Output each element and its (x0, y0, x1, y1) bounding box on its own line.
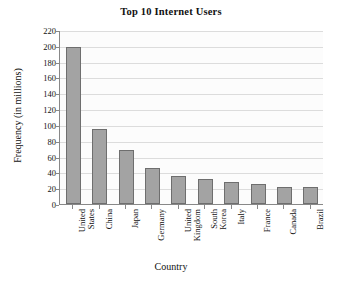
y-axis-tick-label: 120 (32, 106, 56, 115)
x-axis-tick-label-line: Brazil (316, 209, 325, 231)
y-axis-tick-label: 160 (32, 74, 56, 83)
bar-series (60, 31, 323, 204)
x-axis-tick-label-line: Japan (131, 209, 140, 229)
y-axis-tick-label: 40 (32, 169, 56, 178)
y-axis-tick-label: 100 (32, 122, 56, 131)
y-axis-tick-label: 180 (32, 59, 56, 68)
bar (277, 187, 292, 204)
y-axis-tick-label: 220 (32, 27, 56, 36)
y-axis-tick-label: 140 (32, 90, 56, 99)
bar (92, 129, 107, 204)
plot-area (59, 31, 323, 205)
y-axis-tick-label: 80 (32, 138, 56, 147)
bar (171, 176, 186, 204)
x-axis-tick-label-line: Canada (289, 209, 298, 236)
x-axis-tick-label-line: China (105, 209, 114, 230)
x-axis-tick-label-line: Italy (237, 209, 246, 226)
y-axis-tick-label: 60 (32, 154, 56, 163)
x-axis-tick-label: Brazil (316, 209, 342, 257)
bar (119, 150, 134, 204)
bar (198, 179, 213, 204)
bar (303, 187, 318, 204)
x-axis-tick-label-line: States (87, 209, 96, 230)
x-axis-title: Country (0, 261, 342, 272)
x-axis-tick-label-line: Kingdom (193, 209, 202, 242)
x-axis-tick-label-line: Korea (219, 209, 228, 231)
y-axis-title-text: Frequency (in millions) (12, 68, 23, 162)
x-axis-tick-labels: UnitedStatesChinaJapanGermanyUnitedKingd… (59, 209, 323, 257)
y-axis-tick-label: 0 (32, 201, 56, 210)
bar (251, 184, 266, 204)
bar (145, 168, 160, 204)
x-axis-tick-label-line: France (263, 209, 272, 233)
bar (66, 47, 81, 204)
bar (224, 182, 239, 204)
x-axis-tick-label-line: Germany (157, 209, 166, 242)
y-axis-tick-label: 20 (32, 185, 56, 194)
y-axis-tick-label: 200 (32, 43, 56, 52)
bar-chart: Top 10 Internet Users Frequency (in mill… (0, 0, 342, 285)
chart-title: Top 10 Internet Users (0, 6, 342, 17)
y-axis-title: Frequency (in millions) (10, 30, 24, 200)
y-axis-tick-labels: 020406080100120140160180200220 (28, 31, 56, 205)
